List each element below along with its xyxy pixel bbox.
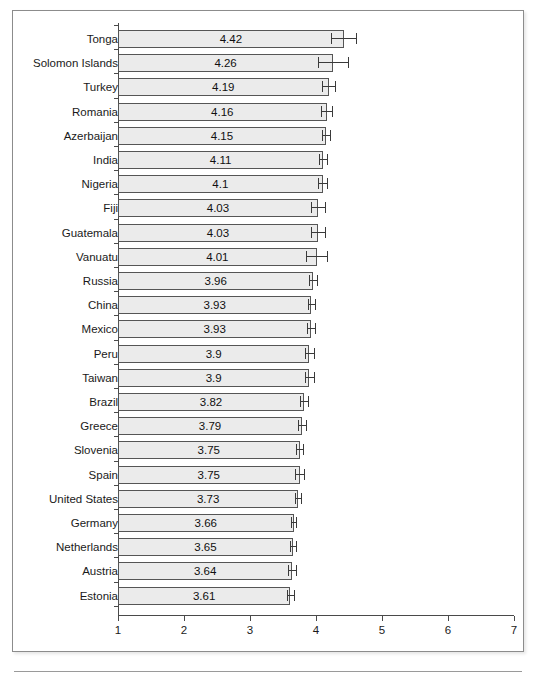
category-label: Greece [80, 414, 118, 438]
y-axis-tick [114, 243, 118, 244]
error-bar-cap-high [306, 420, 307, 431]
bar [118, 466, 300, 484]
chart-row: Mexico3.93 [13, 317, 525, 341]
error-bar-line [309, 280, 317, 281]
error-bar-cap-high [301, 493, 302, 504]
error-bar-cap-low [311, 227, 312, 238]
category-label: Tonga [87, 27, 118, 51]
chart-row: Slovenia3.75 [13, 438, 525, 462]
error-bar-cap-high [332, 106, 333, 117]
error-bar-cap-low [331, 33, 332, 44]
error-bar-cap-low [318, 178, 319, 189]
x-axis-tick-label: 6 [433, 624, 463, 636]
bar [118, 175, 323, 193]
error-bar-cap-low [295, 493, 296, 504]
y-axis-tick [114, 194, 118, 195]
bar [118, 320, 311, 338]
error-bar-cap-high [296, 565, 297, 576]
category-label: Brazil [89, 390, 118, 414]
error-bar-cap-low [308, 299, 309, 310]
error-bar-cap-low [296, 444, 297, 455]
error-bar-cap-high [308, 396, 309, 407]
category-label: Turkey [83, 75, 118, 99]
error-bar-cap-low [318, 57, 319, 68]
category-label: Slovenia [74, 438, 118, 462]
error-bar-cap-high [315, 323, 316, 334]
figure-frame: Tonga4.42Solomon Islands4.26Turkey4.19Ro… [12, 10, 524, 652]
error-bar-cap-high [304, 469, 305, 480]
error-bar-cap-low [291, 517, 292, 528]
y-axis-tick [114, 582, 118, 583]
category-label: Vanuatu [76, 245, 118, 269]
error-bar-cap-high [325, 227, 326, 238]
error-bar-line [318, 62, 348, 63]
error-bar-cap-high [356, 33, 357, 44]
chart-row: Germany3.66 [13, 511, 525, 535]
error-bar-cap-high [296, 541, 297, 552]
error-bar-cap-high [317, 275, 318, 286]
x-axis-tick-label: 7 [499, 624, 529, 636]
chart-row: Fiji4.03 [13, 196, 525, 220]
y-axis-tick [114, 49, 118, 50]
y-axis-tick [114, 98, 118, 99]
error-bar-cap-low [305, 348, 306, 359]
error-bar-cap-high [325, 202, 326, 213]
bar [118, 490, 298, 508]
error-bar-cap-low [321, 106, 322, 117]
x-axis-tick [514, 616, 515, 621]
y-axis-tick [114, 146, 118, 147]
error-bar-cap-high [327, 178, 328, 189]
chart-row: Netherlands3.65 [13, 535, 525, 559]
category-label: India [93, 148, 118, 172]
bar-chart-plot: Tonga4.42Solomon Islands4.26Turkey4.19Ro… [13, 11, 525, 653]
y-axis-tick [114, 557, 118, 558]
x-axis-tick [448, 616, 449, 621]
bar [118, 151, 323, 169]
error-bar-cap-high [314, 348, 315, 359]
footer-rule [14, 671, 522, 672]
error-bar-cap-low [295, 469, 296, 480]
error-bar-cap-high [296, 517, 297, 528]
bar [118, 127, 326, 145]
cropped-caption-sliver [0, 0, 536, 7]
error-bar-cap-low [298, 420, 299, 431]
category-label: Guatemala [62, 221, 118, 245]
error-bar-line [305, 353, 314, 354]
error-bar-cap-high [330, 130, 331, 141]
bar [118, 417, 302, 435]
chart-row: Peru3.9 [13, 342, 525, 366]
category-label: Peru [94, 342, 118, 366]
chart-row: Turkey4.19 [13, 75, 525, 99]
chart-row: Tonga4.42 [13, 27, 525, 51]
error-bar-cap-high [327, 251, 328, 262]
category-label: Austria [82, 559, 118, 583]
error-bar-cap-low [287, 590, 288, 601]
error-bar-cap-low [307, 323, 308, 334]
y-axis-tick [114, 388, 118, 389]
category-label: Romania [72, 100, 118, 124]
y-axis-tick [114, 412, 118, 413]
y-axis-tick [114, 291, 118, 292]
chart-row: Vanuatu4.01 [13, 245, 525, 269]
error-bar-line [298, 425, 306, 426]
chart-row: United States3.73 [13, 487, 525, 511]
category-label: United States [49, 487, 118, 511]
x-axis-tick [382, 616, 383, 621]
y-axis-tick [114, 315, 118, 316]
x-axis-tick-label: 3 [235, 624, 265, 636]
chart-row: Spain3.75 [13, 463, 525, 487]
error-bar-line [288, 570, 296, 571]
error-bar-cap-high [315, 299, 316, 310]
error-bar-line [295, 474, 304, 475]
error-bar-cap-low [319, 154, 320, 165]
error-bar-cap-low [322, 81, 323, 92]
y-axis-tick [114, 340, 118, 341]
x-axis-tick [250, 616, 251, 621]
y-axis-tick [114, 461, 118, 462]
error-bar-cap-low [311, 202, 312, 213]
bar [118, 393, 304, 411]
bar [118, 30, 344, 48]
y-axis-tick [114, 122, 118, 123]
error-bar-cap-low [300, 396, 301, 407]
bar [118, 248, 317, 266]
